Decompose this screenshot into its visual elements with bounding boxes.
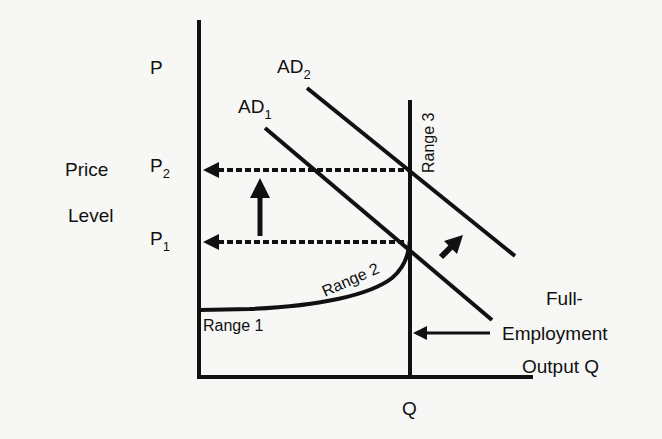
up-arrow-icon xyxy=(250,178,270,198)
full-employment-pointer-icon xyxy=(413,326,427,340)
full-employment-line1: Full- xyxy=(546,288,583,309)
p2-arrow-icon xyxy=(203,162,219,178)
range1-label: Range 1 xyxy=(203,317,264,334)
y-axis-label-line2: Level xyxy=(68,205,113,226)
range3-label: Range 3 xyxy=(420,112,437,173)
full-employment-line3: Output Q xyxy=(522,356,599,377)
ad1-label: AD1 xyxy=(238,96,272,122)
ad2-label: AD2 xyxy=(277,56,311,82)
range2-label: Range 2 xyxy=(319,260,381,300)
p1-arrow-icon xyxy=(203,234,219,250)
p2-label: P2 xyxy=(150,155,170,181)
ad-as-diagram: P Price Level P2 P1 AD1 AD2 Range 1 Rang… xyxy=(0,0,662,439)
x-axis-symbol: Q xyxy=(402,398,417,419)
p1-label: P1 xyxy=(150,228,170,254)
y-axis-symbol: P xyxy=(150,57,163,78)
y-axis-label-line1: Price xyxy=(65,159,108,180)
ad1-curve xyxy=(265,128,492,320)
full-employment-line2: Employment xyxy=(502,323,608,344)
